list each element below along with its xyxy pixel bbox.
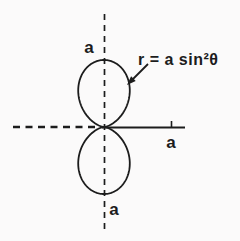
figure-canvas: r = a sin²θ a a a	[0, 0, 240, 241]
label-a-right: a	[166, 133, 176, 152]
equation-label: r = a sin²θ	[138, 51, 218, 68]
label-a-top: a	[84, 38, 94, 57]
polar-curve-figure: r = a sin²θ a a a	[0, 0, 240, 241]
label-a-bottom: a	[109, 200, 119, 219]
